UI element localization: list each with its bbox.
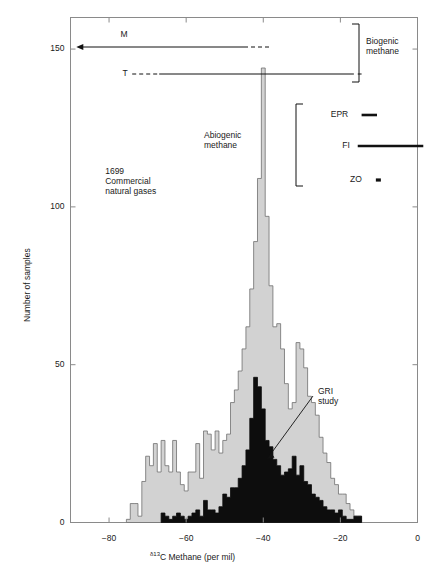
range-label-t: T: [123, 68, 128, 78]
gri-study-label: GRIstudy: [318, 386, 338, 406]
range-label-epr: EPR: [331, 109, 348, 119]
sample-count-note: 1699Commercialnatural gases: [105, 166, 156, 196]
group-brackets: [296, 24, 359, 186]
range-label-zo: ZO: [350, 174, 362, 184]
y-tick-label-3: 150: [37, 43, 65, 53]
y-tick-label-2: 100: [37, 201, 65, 211]
y-tick-label-0: 0: [37, 517, 65, 527]
range-label-m: M: [121, 29, 128, 39]
delta-13-superscript: δ13: [150, 551, 160, 557]
range-bar-annotations: [76, 44, 423, 180]
x-tick-label-4: 0: [404, 533, 432, 543]
x-axis-title-text: C Methane (per mil): [160, 551, 235, 561]
chart-canvas: [0, 0, 435, 573]
histogram-series-commercial: [126, 68, 361, 523]
y-axis-title: Number of samples: [22, 248, 32, 322]
x-tick-label-2: −40: [249, 533, 277, 543]
x-tick-label-3: −20: [326, 533, 354, 543]
x-tick-label-0: −80: [95, 533, 123, 543]
abiogenic-methane-label: Abiogenicmethane: [204, 130, 241, 150]
x-axis-title: δ13C Methane (per mil): [150, 551, 235, 562]
chart-figure: Number of samples δ13C Methane (per mil)…: [0, 0, 435, 573]
biogenic-methane-label: Biogenicmethane: [366, 36, 399, 56]
x-tick-label-1: −60: [172, 533, 200, 543]
y-tick-label-1: 50: [37, 359, 65, 369]
range-label-fi: FI: [342, 140, 350, 150]
